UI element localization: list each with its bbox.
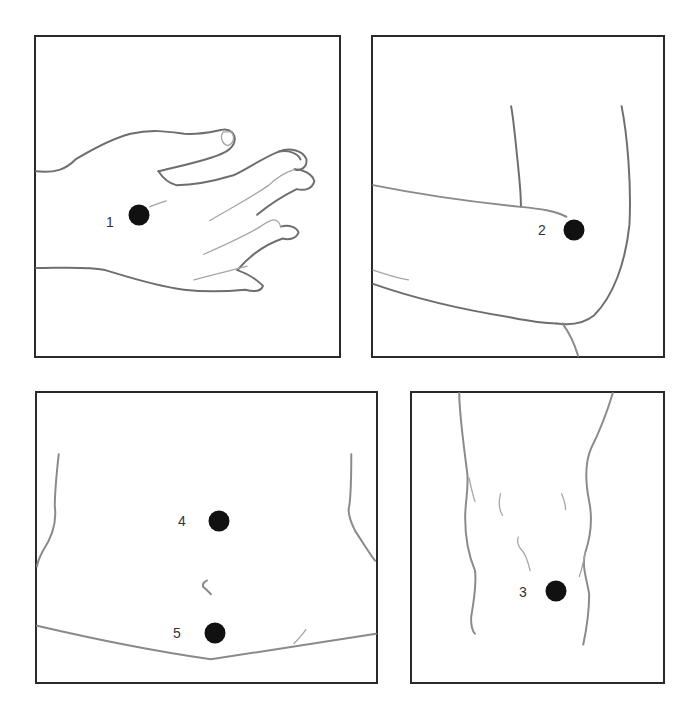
panel-upper-arm: 2 bbox=[371, 35, 665, 358]
site-label-4: 4 bbox=[178, 514, 186, 528]
injection-site-dot-1 bbox=[129, 205, 150, 226]
site-label-2: 2 bbox=[538, 223, 546, 237]
panel-hand: 1 bbox=[34, 35, 341, 358]
panel-thigh: 3 bbox=[410, 391, 665, 684]
arm-illustration bbox=[373, 37, 663, 356]
hand-illustration bbox=[36, 37, 339, 356]
panel-abdomen: 4 5 bbox=[35, 391, 378, 684]
site-label-1: 1 bbox=[106, 215, 114, 229]
site-label-3: 3 bbox=[519, 585, 527, 599]
injection-site-dot-5 bbox=[205, 623, 226, 644]
injection-site-dot-4 bbox=[209, 511, 230, 532]
injection-site-dot-2 bbox=[564, 220, 585, 241]
thigh-illustration bbox=[412, 393, 663, 682]
site-label-5: 5 bbox=[173, 626, 181, 640]
injection-site-dot-3 bbox=[546, 581, 567, 602]
